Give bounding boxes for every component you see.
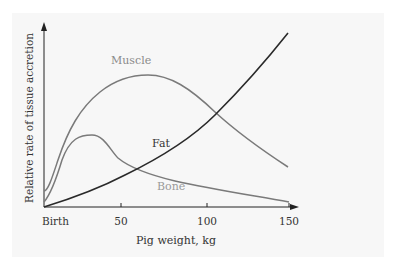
y-axis-arrow-icon <box>41 22 47 31</box>
y-axis-title: Relative rate of tissue accretion <box>23 33 35 203</box>
fat-label: Fat <box>152 137 170 150</box>
x-tick-label-birth: Birth <box>42 215 69 227</box>
bone-label: Bone <box>157 180 185 193</box>
muscle-curve <box>44 75 288 191</box>
x-axis-arrow-icon <box>290 204 299 210</box>
x-axis-title: Pig weight, kg <box>136 234 216 247</box>
x-tick-label-150: 150 <box>279 215 299 227</box>
muscle-label: Muscle <box>111 54 151 67</box>
x-tick-label-50: 50 <box>114 215 127 227</box>
tissue-accretion-chart: Muscle Fat Bone Birth 50 100 150 Pig wei… <box>0 0 397 267</box>
x-tick-label-100: 100 <box>197 215 217 227</box>
